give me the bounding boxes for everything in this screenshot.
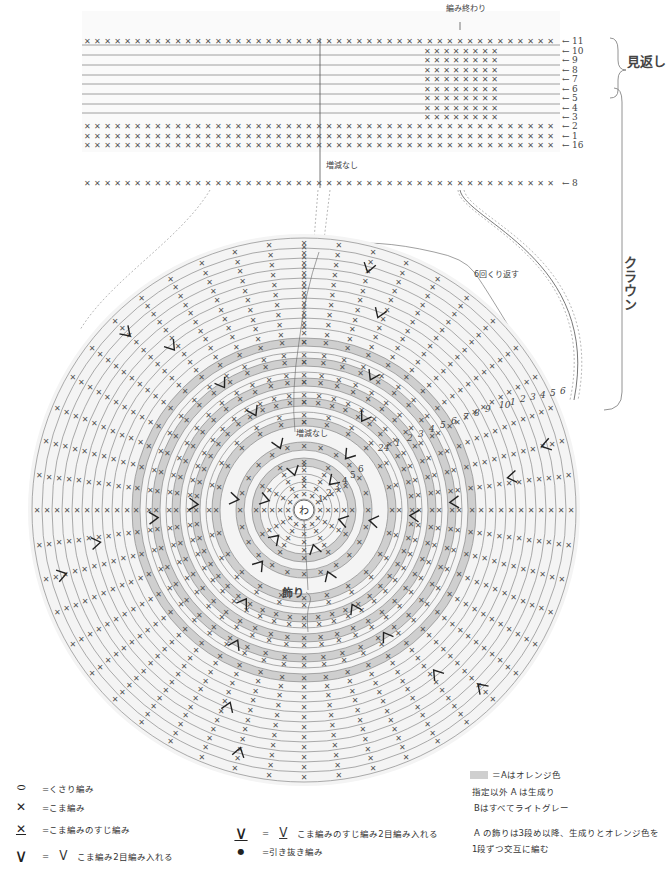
svg-text:✕: ✕ — [329, 291, 336, 300]
svg-text:✕: ✕ — [457, 710, 464, 719]
svg-text:✕: ✕ — [139, 600, 146, 609]
svg-text:✕: ✕ — [130, 460, 137, 469]
svg-text:✕: ✕ — [136, 380, 143, 389]
svg-text:✕: ✕ — [244, 716, 251, 725]
svg-text:✕: ✕ — [105, 480, 112, 489]
legend-slip-stitch: ● =引き抜き編み — [230, 845, 323, 857]
svg-text:✕: ✕ — [234, 258, 241, 267]
svg-text:✕: ✕ — [419, 555, 426, 564]
svg-text:✕: ✕ — [164, 449, 171, 458]
svg-text:✕: ✕ — [155, 422, 162, 431]
svg-text:✕: ✕ — [147, 526, 154, 535]
svg-text:✕: ✕ — [424, 292, 431, 301]
svg-text:✕: ✕ — [396, 506, 403, 515]
svg-text:✕: ✕ — [198, 259, 205, 268]
svg-text:✕: ✕ — [201, 547, 208, 556]
note-default-a: 指定以外 A は生成り — [472, 785, 555, 799]
svg-text:✕: ✕ — [267, 761, 274, 770]
svg-text:✕: ✕ — [229, 679, 236, 688]
svg-text:✕: ✕ — [400, 449, 407, 458]
mikaeshi-label: 見返し — [627, 51, 666, 70]
svg-text:✕: ✕ — [237, 267, 244, 276]
svg-text:✕: ✕ — [419, 457, 426, 466]
svg-text:✕: ✕ — [223, 405, 230, 414]
svg-text:✕: ✕ — [464, 574, 471, 583]
svg-text:✕: ✕ — [489, 615, 496, 624]
svg-text:✕: ✕ — [54, 506, 61, 515]
svg-text:✕: ✕ — [140, 346, 147, 355]
svg-text:✕: ✕ — [496, 480, 503, 489]
sc-increase-detail-icon: ᐯ — [59, 849, 67, 863]
svg-text:✕: ✕ — [400, 547, 407, 556]
svg-text:✕: ✕ — [433, 678, 440, 687]
svg-text:✕: ✕ — [130, 605, 137, 614]
svg-text:✕: ✕ — [154, 360, 161, 369]
svg-text:✕: ✕ — [182, 457, 189, 466]
svg-text:✕: ✕ — [274, 711, 281, 720]
svg-text:✕: ✕ — [451, 310, 458, 319]
svg-text:✕: ✕ — [161, 645, 168, 654]
svg-text:✕: ✕ — [280, 518, 287, 527]
svg-text:✕: ✕ — [245, 538, 252, 547]
svg-text:✕: ✕ — [202, 677, 209, 686]
svg-text:✕: ✕ — [227, 634, 234, 643]
svg-text:✕: ✕ — [426, 381, 433, 390]
svg-text:✕: ✕ — [403, 259, 410, 268]
svg-text:✕: ✕ — [69, 373, 76, 382]
svg-text:✕: ✕ — [326, 701, 333, 710]
svg-text:✕: ✕ — [227, 378, 234, 387]
svg-text:✕: ✕ — [357, 716, 364, 725]
svg-text:✕: ✕ — [473, 578, 480, 587]
legend-back-loop-increase: ∨ = ᐯ こま編みのすじ編み2目編み入れる — [230, 822, 438, 843]
svg-text:✕: ✕ — [418, 574, 425, 583]
svg-text:✕: ✕ — [125, 483, 132, 492]
svg-text:✕: ✕ — [301, 693, 308, 702]
svg-text:✕: ✕ — [445, 318, 452, 327]
svg-text:✕: ✕ — [270, 741, 277, 750]
svg-text:✕: ✕ — [404, 327, 411, 336]
svg-text:✕: ✕ — [273, 522, 280, 531]
svg-text:✕: ✕ — [399, 269, 406, 278]
svg-text:✕: ✕ — [190, 442, 197, 451]
svg-text:✕: ✕ — [95, 625, 102, 634]
svg-text:✕: ✕ — [284, 444, 291, 453]
svg-text:✕: ✕ — [113, 398, 120, 407]
svg-text:←: ← — [562, 74, 570, 84]
svg-text:✕: ✕ — [465, 632, 472, 641]
svg-text:✕: ✕ — [425, 454, 432, 463]
svg-text:✕: ✕ — [520, 447, 527, 456]
svg-text:✕: ✕ — [74, 506, 81, 515]
svg-text:✕: ✕ — [236, 661, 243, 670]
svg-text:✕: ✕ — [130, 408, 137, 417]
svg-text:✕: ✕ — [224, 550, 231, 559]
svg-text:✕: ✕ — [539, 570, 546, 579]
legend-single-crochet: ✕ =こま編み — [10, 800, 85, 814]
svg-text:✕: ✕ — [372, 679, 379, 688]
svg-text:✕: ✕ — [174, 489, 181, 498]
svg-text:✕: ✕ — [56, 538, 63, 547]
svg-text:✕: ✕ — [233, 670, 240, 679]
svg-text:✕: ✕ — [276, 691, 283, 700]
svg-text:✕: ✕ — [69, 640, 76, 649]
svg-text:✕: ✕ — [328, 711, 335, 720]
svg-text:✕: ✕ — [213, 506, 220, 515]
svg-text:✕: ✕ — [217, 652, 224, 661]
svg-text:✕: ✕ — [277, 506, 284, 515]
svg-text:✕: ✕ — [454, 595, 461, 604]
svg-text:✕: ✕ — [520, 565, 527, 574]
svg-text:✕: ✕ — [346, 551, 353, 560]
svg-text:✕: ✕ — [144, 710, 151, 719]
svg-text:✕: ✕ — [229, 333, 236, 342]
svg-text:✕: ✕ — [407, 462, 414, 471]
svg-text:✕: ✕ — [389, 506, 396, 515]
svg-text:✕: ✕ — [440, 367, 447, 376]
svg-text:✕: ✕ — [512, 669, 519, 678]
single-crochet-icon: ✕ — [10, 800, 32, 814]
svg-text:✕: ✕ — [225, 688, 232, 697]
svg-text:✕: ✕ — [357, 296, 364, 305]
svg-text:✕: ✕ — [391, 725, 398, 734]
svg-text:✕: ✕ — [198, 373, 205, 382]
svg-text:✕: ✕ — [391, 416, 398, 425]
svg-text:✕: ✕ — [451, 702, 458, 711]
svg-text:✕: ✕ — [346, 677, 353, 686]
